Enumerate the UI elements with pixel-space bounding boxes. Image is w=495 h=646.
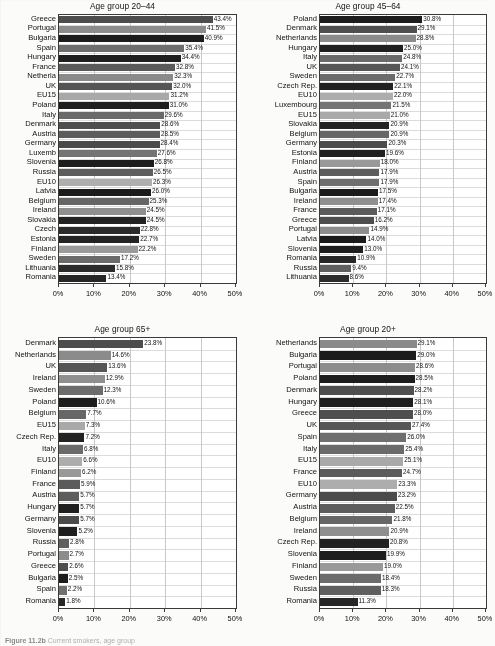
figure-caption-text: Current smokers, age group <box>48 637 135 644</box>
category-label-column: DenmarkNetherlandsUKIrelandSwedenPolandB… <box>0 337 56 607</box>
bar-value-label: 14.6% <box>112 351 130 357</box>
bar-value-label: 12.9% <box>106 375 124 381</box>
category-label-column: NetherlandsBulgariaPortugalPolandDenmark… <box>245 337 317 607</box>
category-label: Finland <box>292 562 317 570</box>
bar <box>59 410 86 419</box>
bar-value-label: 9.4% <box>352 264 366 270</box>
category-label: EU15 <box>298 111 317 119</box>
category-label: Hungary <box>288 44 317 52</box>
bar <box>59 35 204 42</box>
category-label: Belgium <box>29 197 56 205</box>
axis-tick-label: 20% <box>378 289 393 298</box>
bar <box>320 160 380 167</box>
category-label: Denmark <box>286 386 317 394</box>
bar-value-label: 19.0% <box>384 563 402 569</box>
bar <box>320 527 389 536</box>
bar-value-label: 27.4% <box>412 422 430 428</box>
gridline <box>486 338 487 608</box>
plot-area-20-44: GreecePortugalBulgariaSpainHungaryFrance… <box>0 14 245 302</box>
bar <box>320 469 402 478</box>
bar-value-label: 28.0% <box>414 410 432 416</box>
bar <box>320 169 379 176</box>
category-label: Netherla <box>27 72 56 80</box>
category-label: Hungary <box>27 53 56 61</box>
bar-value-label: 25.4% <box>405 445 423 451</box>
category-label: France <box>293 206 317 214</box>
axis-tick-label: 20% <box>121 614 136 623</box>
bar <box>59 398 97 407</box>
bar <box>59 351 111 360</box>
bar <box>59 150 157 157</box>
axis-tick <box>319 284 320 287</box>
bar <box>59 492 79 501</box>
x-axis: 0%10%20%30%40%50% <box>58 611 235 625</box>
bar-value-label: 25.3% <box>150 197 168 203</box>
axis-tick <box>129 609 130 612</box>
bar-value-label: 28.6% <box>161 121 179 127</box>
axis-tick <box>352 284 353 287</box>
row-separator <box>59 561 236 562</box>
axis-tick-label: 30% <box>411 614 426 623</box>
bar-value-label: 2.5% <box>69 574 83 580</box>
bar <box>59 189 151 196</box>
bar <box>59 504 79 513</box>
axis-tick <box>235 609 236 612</box>
bar-value-label: 25.1% <box>404 457 422 463</box>
category-label: Netherlands <box>15 351 56 359</box>
category-label: EU10 <box>298 92 317 100</box>
bar <box>59 227 140 234</box>
category-label: Estonia <box>292 149 317 157</box>
bar-value-label: 7.3% <box>86 422 100 428</box>
axis-tick <box>93 609 94 612</box>
category-label: Poland <box>293 374 317 382</box>
category-label: Lithuania <box>25 264 56 272</box>
category-label: Ireland <box>294 527 317 535</box>
category-label: Denmark <box>25 120 56 128</box>
category-label: Luxemb <box>29 149 56 157</box>
bar-value-label: 22.7% <box>140 236 158 242</box>
category-label: Romania <box>26 273 56 281</box>
bar-value-label: 11.3% <box>359 598 376 604</box>
category-label: UK <box>306 63 317 71</box>
bar-value-label: 21.5% <box>392 102 410 108</box>
x-axis: 0%10%20%30%40%50% <box>319 611 485 625</box>
bar <box>320 55 402 62</box>
bar <box>59 179 152 186</box>
category-label: Finland <box>292 159 317 167</box>
axis-tick-label: 10% <box>345 614 360 623</box>
axis-tick <box>58 284 59 287</box>
bar <box>320 340 417 349</box>
category-label-column: PolandDenmarkNetherlandsHungaryItalyUKSw… <box>245 14 317 282</box>
bar <box>320 351 416 360</box>
bar-value-label: 22.2% <box>139 245 157 251</box>
bar <box>320 131 389 138</box>
bar-value-label: 15.8% <box>116 264 134 270</box>
category-label: Portugal <box>289 363 317 371</box>
bar-value-label: 8.6% <box>350 274 364 280</box>
bar-value-label: 22.0% <box>394 92 412 98</box>
axis-tick-label: 0% <box>314 289 325 298</box>
axis-tick <box>419 284 420 287</box>
gridline <box>236 338 237 608</box>
bar <box>320 93 393 100</box>
bar <box>320 83 393 90</box>
bar <box>320 189 378 196</box>
category-label: Slovenia <box>288 245 317 253</box>
axis-tick <box>58 609 59 612</box>
category-label: Russia <box>294 586 317 594</box>
category-label: Bulgaria <box>289 351 317 359</box>
bar <box>320 64 400 71</box>
axis-tick-label: 30% <box>157 289 172 298</box>
category-label: Czech Rep. <box>277 82 317 90</box>
axis-tick <box>419 609 420 612</box>
axis-tick-label: 0% <box>53 614 64 623</box>
bar <box>320 586 381 595</box>
bar <box>59 598 65 607</box>
axis-tick-label: 30% <box>411 289 426 298</box>
bar-value-label: 13.4% <box>107 274 125 280</box>
bar-value-label: 5.2% <box>78 528 92 534</box>
bar-value-label: 17.1% <box>378 207 396 213</box>
category-label: Czech Rep. <box>16 433 56 441</box>
bar <box>320 574 381 583</box>
bar-value-label: 17.9% <box>380 178 398 184</box>
